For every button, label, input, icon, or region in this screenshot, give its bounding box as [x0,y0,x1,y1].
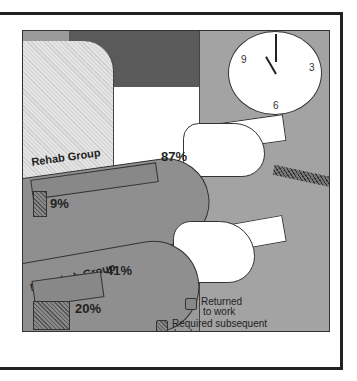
legend-rtw: Returned to work [201,297,242,317]
legend-rtw-line2: to work [201,307,242,317]
nonrehab-rtw-value: 41% [106,263,132,278]
rehab-surgery-bar [33,191,47,217]
clock-icon: 9 3 6 [228,31,322,115]
clock-minute-hand [275,34,277,62]
rehab-rtw-value: 87% [161,149,187,164]
legend-swatch-rtw [185,298,197,310]
nonrehab-surgery-bar [33,301,70,330]
legend-surgery-line2: back surgery [172,329,267,332]
rehab-surgery-value: 9% [50,196,69,211]
clock-three: 3 [309,62,315,73]
nonrehab-surgery-value: 20% [75,301,101,316]
illustration-panel: 9 3 6 Rehab Group 87% 9% Nonrehab Group … [22,30,330,332]
legend-surgery: Required subsequent back surgery [172,319,267,332]
legend-swatch-surgery [156,320,168,332]
clock-nine: 9 [241,54,247,65]
clock-six: 6 [273,100,279,111]
